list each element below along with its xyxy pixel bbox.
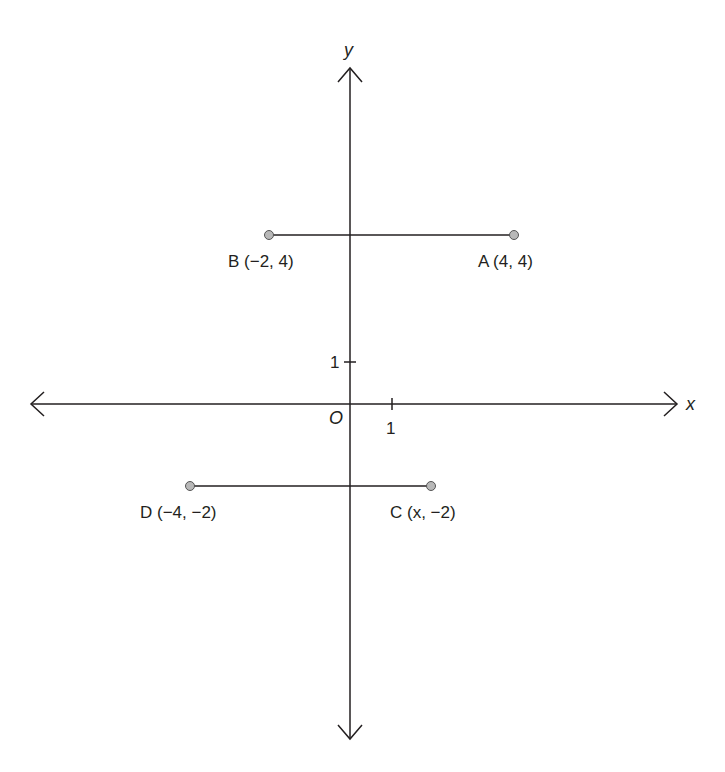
- segment-ba: [265, 231, 519, 240]
- point-d: [186, 482, 195, 491]
- point-a-label: A (4, 4): [478, 252, 533, 271]
- y-tick-label: 1: [330, 353, 339, 372]
- coordinate-plane: y x O 1 1 B (−2, 4) A (4, 4) D (−4, −2) …: [0, 0, 725, 772]
- point-d-label: D (−4, −2): [140, 503, 217, 522]
- point-a: [510, 231, 519, 240]
- point-c-label: C (x, −2): [390, 503, 456, 522]
- point-b: [265, 231, 274, 240]
- y-axis-label: y: [342, 40, 354, 60]
- x-axis-label: x: [685, 394, 696, 414]
- x-axis: [31, 392, 677, 416]
- segment-dc: [186, 482, 436, 491]
- point-b-label: B (−2, 4): [228, 252, 294, 271]
- x-tick-label: 1: [386, 419, 395, 438]
- point-c: [427, 482, 436, 491]
- origin-label: O: [329, 408, 343, 428]
